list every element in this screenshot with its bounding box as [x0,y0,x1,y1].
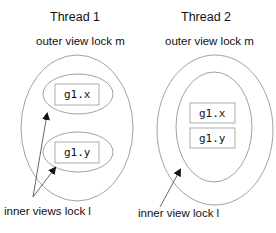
t1-outer-view-ellipse [21,55,133,201]
thread1-box-g1y-label: g1.y [64,147,91,158]
thread1-inner-label: inner views lock l [4,206,91,218]
thread2-title: Thread 2 [181,11,231,24]
thread1-box-g1x-label: g1.x [64,89,91,100]
thread2-box-g1y-label: g1.y [199,133,226,144]
thread1-title: Thread 1 [50,11,100,24]
thread2-box-g1x-label: g1.x [199,108,226,119]
t1-arrow-to-inner-y [33,168,55,197]
t2-inner-view-ellipse [176,72,252,182]
t2-arrow-to-inner [160,170,180,207]
thread2-inner-label: inner view lock l [138,208,219,220]
thread2-outer-label: outer view lock m [165,36,254,48]
thread1-outer-label: outer view lock m [36,36,125,48]
t1-arrow-to-inner-x [33,114,47,197]
